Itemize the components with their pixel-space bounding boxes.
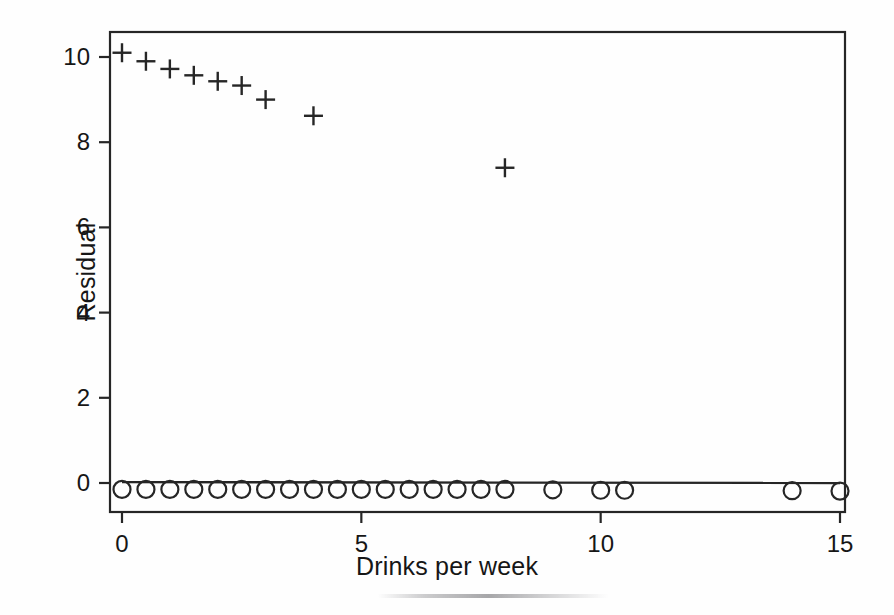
residual-scatter-figure: Residual Drinks per week 0510150246810 (0, 0, 894, 615)
data-point-circle (592, 482, 609, 499)
x-axis-tick-label: 5 (355, 530, 368, 558)
data-point-plus (256, 90, 275, 109)
y-axis-tick-label: 0 (58, 469, 90, 497)
scan-artifact (378, 594, 608, 598)
data-point-plus (304, 106, 323, 125)
y-axis-tick-label: 4 (58, 299, 90, 327)
x-axis-tick-label: 10 (587, 530, 614, 558)
data-point-circle (544, 481, 561, 498)
series-plus-series (113, 43, 515, 177)
data-point-circle (137, 481, 154, 498)
data-point-plus (208, 72, 227, 91)
data-point-circle (185, 481, 202, 498)
data-point-circle (784, 482, 801, 499)
y-axis-title-container: Residual (72, 32, 112, 512)
data-point-plus (160, 59, 179, 78)
data-point-plus (113, 43, 132, 62)
x-axis-tick-label: 15 (827, 530, 854, 558)
data-point-circle (161, 481, 178, 498)
x-axis-tick-label: 0 (115, 530, 128, 558)
data-point-plus (136, 52, 155, 71)
y-axis-tick-label: 10 (58, 43, 90, 71)
plot-frame (110, 32, 845, 512)
y-axis-tick-label: 8 (58, 128, 90, 156)
data-point-circle (114, 481, 131, 498)
zero-reference-line (122, 482, 840, 483)
y-axis-tick-label: 6 (58, 213, 90, 241)
x-axis-title: Drinks per week (0, 552, 894, 581)
data-point-circle (616, 482, 633, 499)
data-point-plus (495, 158, 514, 177)
data-point-plus (184, 66, 203, 85)
y-axis-title: Residual (72, 32, 101, 512)
data-point-plus (232, 76, 251, 95)
y-axis-tick-label: 2 (58, 384, 90, 412)
plot-canvas (0, 0, 894, 615)
